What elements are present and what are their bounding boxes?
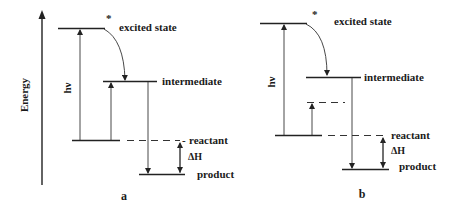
energy-axis-arrowhead-icon (39, 10, 46, 19)
panel-b-label: b (359, 187, 366, 201)
energy-axis: Energy (18, 10, 46, 185)
excited-state-label: excited state (119, 21, 177, 33)
reactant-label: reactant (391, 129, 430, 141)
panel-b: * excited state hν intermediate reactant… (260, 8, 436, 201)
panel-a: * excited state hν intermediate - reacta… (58, 12, 234, 203)
enthalpy-label: ΔH (391, 145, 405, 156)
energy-axis-label: Energy (18, 77, 30, 112)
energy-diagram: Energy * excited state hν intermediate -… (0, 0, 452, 212)
product-label: product (399, 160, 436, 172)
reactant-prefix: - (182, 134, 186, 146)
photon-label: hν (265, 76, 277, 87)
enthalpy-label: ΔH (188, 151, 202, 162)
relaxation-curve-arrow (306, 24, 327, 75)
photon-label: hν (61, 82, 73, 93)
relaxation-curve-arrow (104, 29, 125, 80)
excited-state-label: excited state (334, 15, 392, 27)
excited-marker: * (106, 12, 112, 24)
intermediate-label: intermediate (364, 71, 424, 83)
excited-marker: * (312, 8, 318, 20)
product-label: product (197, 168, 234, 180)
panel-a-label: a (121, 189, 127, 203)
intermediate-label: intermediate (162, 75, 222, 87)
reactant-label: reactant (189, 134, 228, 146)
